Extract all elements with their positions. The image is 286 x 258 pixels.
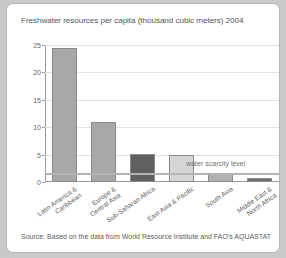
bar [130,154,154,182]
source-note: Source: Based on the data from World Res… [21,233,271,240]
y-tick-mark [42,182,45,183]
y-tick-mark [42,45,45,46]
y-tick-label: 20 [33,69,41,76]
y-tick-mark [42,155,45,156]
bar [208,174,232,182]
gridline [45,45,279,46]
y-tick-mark [42,72,45,73]
y-tick-label: 5 [37,151,41,158]
water-scarcity-level-label: water scarcity level [186,160,245,167]
gridline [45,155,279,156]
plot-area: 0510152025 water scarcity level Latin Am… [45,45,279,182]
gridline [45,100,279,101]
gridline [45,127,279,128]
y-tick-label: 0 [37,179,41,186]
figure-card: Freshwater resources per capita (thousan… [6,3,280,253]
y-tick-label: 15 [33,96,41,103]
y-tick-mark [42,100,45,101]
y-tick-mark [42,127,45,128]
x-tick-label: East Asia & Pacific [125,185,195,237]
bar [247,178,271,182]
chart-title: Freshwater resources per capita (thousan… [21,16,271,25]
bar [52,48,76,182]
y-tick-label: 25 [33,42,41,49]
gridline [45,72,279,73]
y-tick-label: 10 [33,124,41,131]
water-scarcity-level-line [45,173,279,175]
